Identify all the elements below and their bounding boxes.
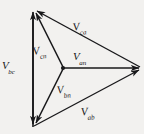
phasor-label-vbc-subscript: bc	[8, 68, 15, 76]
phasor-label-vca: Vca	[72, 20, 87, 36]
phasor-label-vca-subscript: ca	[79, 28, 87, 37]
phasor-label-van-subscript: an	[79, 59, 86, 67]
phasor-label-vab: Vab	[80, 105, 95, 120]
phasor-label-vbn: Vbn	[56, 83, 71, 99]
phasor-line-vca	[37, 11, 140, 67]
phasor-label-van: Van	[73, 51, 87, 65]
phasor-label-vcn: Vcn	[32, 44, 47, 60]
phasor-diagram: Vca Vbc Vcn Van Vbn Vab	[0, 0, 144, 134]
phasor-label-vab-subscript: ab	[87, 113, 95, 122]
phasor-label-vbn-subscript: bn	[63, 91, 71, 100]
phasor-label-vcn-subscript: cn	[39, 52, 47, 61]
phasor-label-vbc: Vbc	[2, 60, 15, 74]
neutral-point-node	[61, 66, 65, 70]
